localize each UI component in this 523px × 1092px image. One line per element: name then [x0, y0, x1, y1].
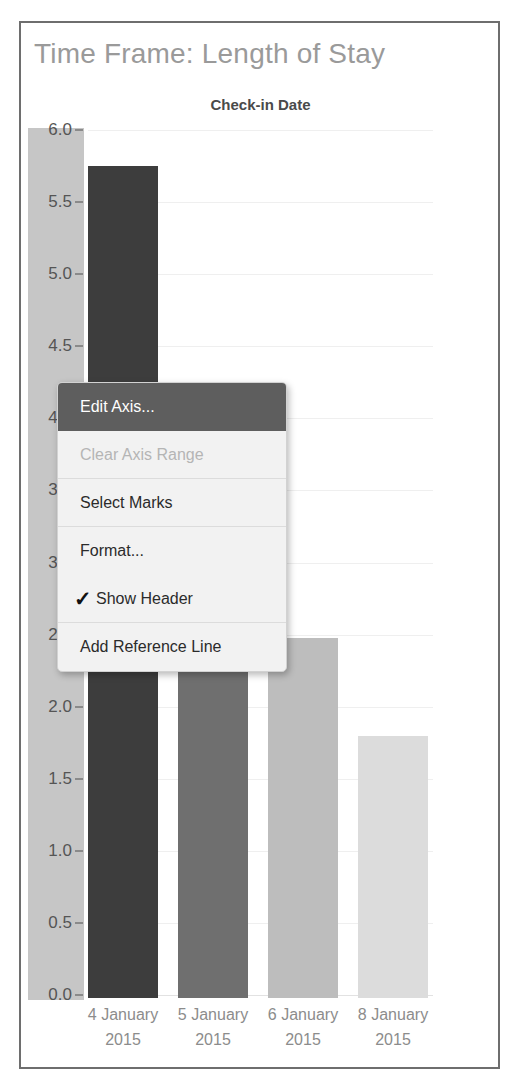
menu-item-show-header[interactable]: ✓Show Header	[58, 575, 286, 623]
menu-item-label: Select Marks	[80, 494, 172, 511]
y-axis-tick-label: 1.0	[48, 841, 72, 861]
menu-item-label: Format...	[80, 542, 144, 559]
menu-item-label: Show Header	[96, 590, 193, 607]
y-axis-tick-mark	[75, 706, 83, 708]
y-axis-tick-label: 0.0	[48, 985, 72, 1005]
bar-mark[interactable]	[268, 638, 338, 998]
x-axis-tick-label[interactable]: 8 January2015	[350, 1002, 436, 1052]
y-axis-tick-mark	[75, 922, 83, 924]
screenshot-root: Time Frame: Length of Stay Check-in Date…	[0, 0, 523, 1092]
menu-item-label: Add Reference Line	[80, 638, 221, 655]
x-axis-tick-label-line2: 2015	[170, 1027, 256, 1052]
x-axis-tick-label-line1: 6 January	[268, 1006, 338, 1023]
x-axis-tick-label-line2: 2015	[350, 1027, 436, 1052]
x-axis-tick-label-line2: 2015	[260, 1027, 346, 1052]
y-axis-tick-mark	[75, 201, 83, 203]
y-axis-tick-label: 1.5	[48, 769, 72, 789]
y-axis-tick-mark	[75, 345, 83, 347]
x-axis-tick-label-line1: 4 January	[88, 1006, 158, 1023]
x-axis-tick-label[interactable]: 5 January2015	[170, 1002, 256, 1052]
bar-mark[interactable]	[358, 736, 428, 998]
y-axis-tick-mark	[75, 129, 83, 131]
gridline	[88, 130, 433, 131]
y-axis-tick-label: 5.0	[48, 264, 72, 284]
y-axis-tick-mark	[75, 850, 83, 852]
menu-item-label: Clear Axis Range	[80, 446, 204, 463]
y-axis-tick-label: 6.0	[48, 120, 72, 140]
checkmark-icon: ✓	[74, 575, 92, 623]
y-axis-tick-mark	[75, 778, 83, 780]
x-axis-tick-label-line2: 2015	[80, 1027, 166, 1052]
x-axis-tick-label-line1: 8 January	[358, 1006, 428, 1023]
y-axis-tick-mark	[75, 273, 83, 275]
x-axis-tick-label[interactable]: 6 January2015	[260, 1002, 346, 1052]
menu-item-label: Edit Axis...	[80, 398, 155, 415]
y-axis-tick-label: 0.5	[48, 913, 72, 933]
y-axis-tick-mark	[75, 994, 83, 996]
menu-item-clear-axis-range: Clear Axis Range	[58, 431, 286, 479]
menu-item-format[interactable]: Format...	[58, 527, 286, 575]
y-axis-tick-label: 4.5	[48, 336, 72, 356]
y-axis-tick-label: 2.0	[48, 697, 72, 717]
axis-context-menu[interactable]: Edit Axis...Clear Axis RangeSelect Marks…	[57, 382, 287, 672]
column-header-label[interactable]: Check-in Date	[88, 96, 433, 113]
menu-item-select-marks[interactable]: Select Marks	[58, 479, 286, 527]
x-axis-labels[interactable]: 4 January20155 January20156 January20158…	[88, 1002, 433, 1072]
menu-item-add-reference-line[interactable]: Add Reference Line	[58, 623, 286, 671]
x-axis-tick-label-line1: 5 January	[178, 1006, 248, 1023]
y-axis-tick-label: 5.5	[48, 192, 72, 212]
page-title: Time Frame: Length of Stay	[34, 38, 385, 70]
x-axis-tick-label[interactable]: 4 January2015	[80, 1002, 166, 1052]
menu-item-edit-axis[interactable]: Edit Axis...	[58, 383, 286, 431]
